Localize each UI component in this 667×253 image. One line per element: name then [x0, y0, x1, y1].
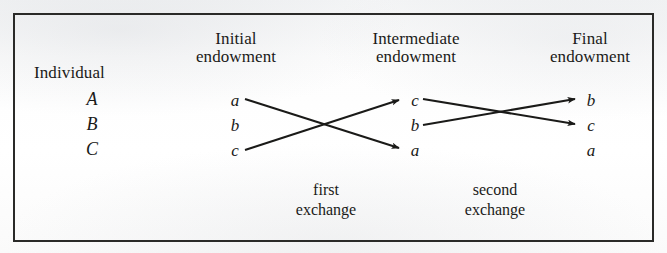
caption-first-exchange-line2: exchange — [266, 200, 386, 220]
column-header-initial-line1: Initial — [215, 29, 256, 48]
initial-endowment-row-c: c — [226, 142, 244, 160]
initial-endowment-row-b: b — [226, 117, 244, 135]
caption-first-exchange: first exchange — [266, 180, 386, 220]
intermediate-endowment-row-c: a — [406, 142, 424, 160]
column-header-final-endowment: Final endowment — [525, 30, 655, 66]
column-header-initial-endowment: Initial endowment — [176, 30, 296, 66]
column-header-intermediate-line2: endowment — [336, 48, 496, 66]
individual-row-label-b: B — [80, 115, 104, 134]
caption-second-exchange-line1: second — [473, 181, 517, 198]
caption-first-exchange-line1: first — [313, 181, 339, 198]
column-header-intermediate-endowment: Intermediate endowment — [336, 30, 496, 66]
individual-row-label-c: C — [80, 140, 104, 159]
intermediate-endowment-row-b: b — [406, 117, 424, 135]
final-endowment-row-a: b — [582, 92, 600, 110]
initial-endowment-row-a: a — [226, 92, 244, 110]
column-header-final-line1: Final — [572, 29, 607, 48]
column-header-intermediate-line1: Intermediate — [372, 29, 459, 48]
column-header-final-line2: endowment — [525, 48, 655, 66]
intermediate-endowment-row-a: c — [406, 92, 424, 110]
final-endowment-row-b: c — [582, 117, 600, 135]
final-endowment-row-c: a — [582, 142, 600, 160]
individual-row-label-a: A — [80, 90, 104, 109]
caption-second-exchange-line2: exchange — [430, 200, 560, 220]
column-header-individual: Individual — [34, 64, 105, 82]
caption-second-exchange: second exchange — [430, 180, 560, 220]
figure-canvas: Individual Initial endowment Intermediat… — [0, 0, 667, 253]
column-header-initial-line2: endowment — [176, 48, 296, 66]
